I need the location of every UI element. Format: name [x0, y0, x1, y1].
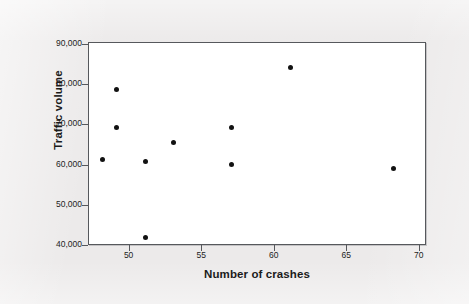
x-tick-label: 55 — [181, 250, 221, 260]
scatter-plot-figure: 40,00050,00060,00070,00080,00090,000 505… — [0, 0, 469, 304]
y-tick-mark — [82, 245, 88, 246]
y-tick-mark — [82, 84, 88, 85]
data-point — [229, 125, 234, 130]
y-tick-mark — [82, 165, 88, 166]
x-axis-title: Number of crashes — [88, 268, 426, 280]
data-point — [171, 140, 176, 145]
data-point — [143, 235, 148, 240]
y-tick-mark — [82, 44, 88, 45]
chart-area: 40,00050,00060,00070,00080,00090,000 505… — [0, 0, 469, 304]
data-point — [288, 65, 293, 70]
x-tick-label: 50 — [109, 250, 149, 260]
y-tick-mark — [82, 205, 88, 206]
data-point — [100, 157, 105, 162]
x-tick-label: 60 — [254, 250, 294, 260]
data-point — [114, 125, 119, 130]
data-point — [114, 87, 119, 92]
y-axis-title: Traffic volume — [52, 30, 64, 190]
data-point — [229, 162, 234, 167]
y-tick-label: 40,000 — [38, 239, 82, 249]
plot-frame — [88, 42, 426, 245]
data-point — [391, 166, 396, 171]
y-tick-label: 50,000 — [38, 199, 82, 209]
x-tick-label: 70 — [399, 250, 439, 260]
data-point — [143, 159, 148, 164]
x-axis-tick-labels: 5055606570 — [0, 250, 469, 264]
y-tick-mark — [82, 124, 88, 125]
x-tick-label: 65 — [326, 250, 366, 260]
